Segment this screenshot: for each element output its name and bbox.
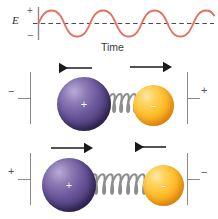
positive-atom-label-bottom: + xyxy=(42,180,96,191)
figure-canvas: E + − Time − + xyxy=(0,0,218,219)
negative-atom-sphere-bottom: − xyxy=(143,165,184,206)
positive-atom-label: + xyxy=(57,99,111,110)
time-axis-label: Time xyxy=(101,41,124,53)
positive-atom-sphere-bottom: + xyxy=(42,158,96,212)
molecule-panel-compress: + − xyxy=(0,139,218,219)
positive-atom-sphere: + xyxy=(57,77,111,131)
molecule-panel-stretch: − + xyxy=(0,58,218,138)
negative-atom-label-bottom: − xyxy=(143,180,184,191)
negative-atom-sphere: − xyxy=(133,85,174,126)
spring-compress xyxy=(0,139,218,219)
negative-atom-label: − xyxy=(133,100,174,111)
electric-field-wave-panel: E + − Time xyxy=(0,0,218,57)
